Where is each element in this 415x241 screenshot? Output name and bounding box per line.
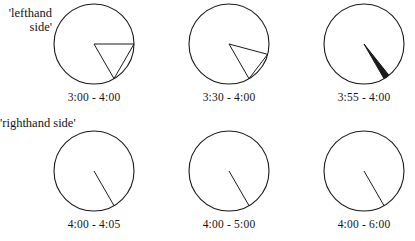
clock-cell: 4:00 - 6:00	[318, 129, 410, 230]
clock-hand-wedge	[229, 44, 268, 79]
clock-face	[322, 2, 406, 86]
clock-angles-figure: 'lefthand side' 'righthand side' 3:00 - …	[0, 0, 415, 241]
clock-diagram-4	[187, 129, 271, 213]
clock-cell: 3:00 - 4:00	[48, 2, 140, 103]
clock-face	[52, 2, 136, 86]
clock-cell: 3:30 - 4:00	[183, 2, 275, 103]
clock-hand-line	[364, 171, 384, 206]
clock-caption: 3:00 - 4:00	[48, 91, 140, 103]
clock-cell: 4:00 - 4:05	[48, 129, 140, 230]
clock-diagram-2	[322, 2, 406, 86]
clock-face	[322, 129, 406, 213]
clock-face	[52, 129, 136, 213]
clock-caption: 3:30 - 4:00	[183, 91, 275, 103]
clock-diagram-0	[52, 2, 136, 86]
clock-caption: 4:00 - 6:00	[318, 218, 410, 230]
clock-diagram-3	[52, 129, 136, 213]
side-label-righthand: 'righthand side'	[0, 116, 108, 130]
clock-hand-wedge	[94, 44, 134, 79]
clock-diagram-1	[187, 2, 271, 86]
clock-cell: 4:00 - 5:00	[183, 129, 275, 230]
clock-caption: 3:55 - 4:00	[318, 91, 410, 103]
side-label-lefthand: 'lefthand side'	[0, 6, 52, 34]
clock-face	[187, 2, 271, 86]
clock-cell: 3:55 - 4:00	[318, 2, 410, 103]
clock-caption: 4:00 - 4:05	[48, 218, 140, 230]
clock-hand-line	[94, 171, 114, 206]
clock-hand-line	[229, 171, 249, 206]
clock-caption: 4:00 - 5:00	[183, 218, 275, 230]
clock-face	[187, 129, 271, 213]
clock-hand-wedge	[364, 44, 389, 79]
clock-diagram-5	[322, 129, 406, 213]
